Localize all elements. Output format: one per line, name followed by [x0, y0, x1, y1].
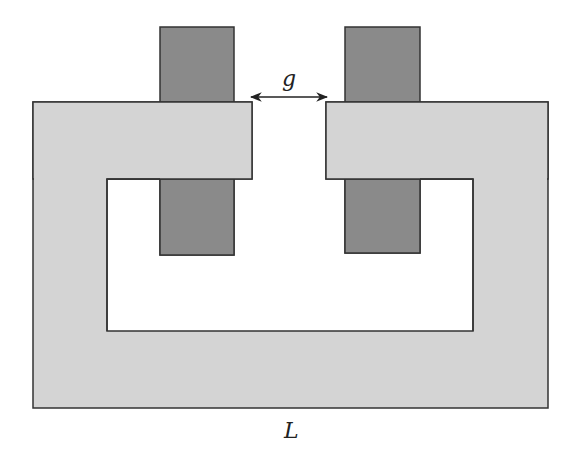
gap-label: g: [282, 66, 296, 91]
magnetic-core-diagram: g L: [0, 0, 579, 451]
length-label: L: [283, 418, 299, 443]
core-top-left-bar: [33, 102, 252, 179]
core-left-fill-patch: [34, 178, 106, 182]
right-coil: [345, 179, 420, 253]
left-coil: [160, 179, 234, 255]
core-right-fill-patch: [474, 178, 547, 182]
core-top-right-bar: [326, 102, 548, 179]
